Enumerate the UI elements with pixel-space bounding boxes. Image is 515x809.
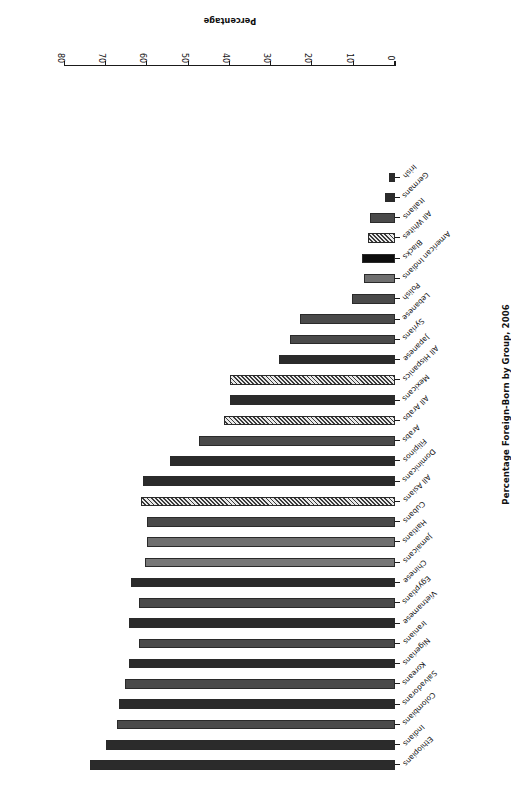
axis-origin-cap xyxy=(395,62,396,67)
bar xyxy=(148,537,396,547)
bar xyxy=(290,335,395,345)
bar xyxy=(119,699,395,709)
category-tick xyxy=(395,278,400,279)
category-tick xyxy=(395,764,400,765)
bar-row: Japanese xyxy=(65,349,395,369)
bar-row: Salvadorans xyxy=(65,694,395,714)
category-tick xyxy=(395,420,400,421)
bar xyxy=(129,659,395,669)
bar xyxy=(364,274,395,284)
bar xyxy=(300,314,395,324)
bar xyxy=(199,436,395,446)
bar-row: All Arabs xyxy=(65,410,395,430)
value-tick xyxy=(394,62,395,67)
category-tick xyxy=(395,541,400,542)
category-tick xyxy=(395,258,400,259)
bar xyxy=(131,578,395,588)
bar xyxy=(170,456,395,466)
bar xyxy=(368,233,395,243)
bar-row: Colombians xyxy=(65,714,395,734)
value-axis: Percentage 01020304050607080 xyxy=(65,6,395,66)
category-tick xyxy=(395,237,400,238)
bar xyxy=(143,477,395,487)
category-tick xyxy=(395,724,400,725)
category-tick xyxy=(395,319,400,320)
bar-row: Nigerians xyxy=(65,653,395,673)
bar-row: Syrians xyxy=(65,329,395,349)
bar-row: Koreans xyxy=(65,674,395,694)
bar-row: American Indians xyxy=(65,268,395,288)
category-tick xyxy=(395,704,400,705)
category-tick xyxy=(395,197,400,198)
category-tick xyxy=(395,217,400,218)
category-tick xyxy=(395,460,400,461)
bar xyxy=(230,375,395,385)
bar xyxy=(106,740,395,750)
bar-row: All Whites xyxy=(65,228,395,248)
category-tick xyxy=(395,663,400,664)
value-tick-label: 40 xyxy=(221,53,230,63)
category-tick xyxy=(395,400,400,401)
bar xyxy=(362,254,395,264)
bar-row: Indians xyxy=(65,734,395,754)
bar xyxy=(145,558,395,568)
category-tick xyxy=(395,602,400,603)
bar xyxy=(139,639,395,649)
value-tick-label: 50 xyxy=(180,53,189,63)
bar-row: Lebanese xyxy=(65,309,395,329)
bar xyxy=(125,679,395,689)
bar-row: Iranians xyxy=(65,633,395,653)
category-tick xyxy=(395,683,400,684)
bar-row: Mexicans xyxy=(65,390,395,410)
bar xyxy=(129,618,395,628)
bar-row: Jamaicans xyxy=(65,552,395,572)
category-tick xyxy=(395,177,400,178)
category-tick xyxy=(395,339,400,340)
bar-row: Ethiopians xyxy=(65,755,395,775)
bar-row: Irish xyxy=(65,167,395,187)
bar-row: Arabs xyxy=(65,430,395,450)
value-tick-label: 30 xyxy=(262,53,271,63)
value-tick-label: 80 xyxy=(56,53,65,63)
bar-row: Blacks xyxy=(65,248,395,268)
bar xyxy=(139,598,395,608)
bar xyxy=(385,193,395,203)
category-tick xyxy=(395,521,400,522)
value-tick-label: 0 xyxy=(386,55,395,60)
bar xyxy=(141,497,395,507)
bar xyxy=(370,213,395,223)
category-tick xyxy=(395,359,400,360)
category-tick xyxy=(395,379,400,380)
axis-line xyxy=(65,65,395,66)
value-axis-title: Percentage xyxy=(65,16,395,26)
value-tick-label: 60 xyxy=(139,53,148,63)
bar-row: Polish xyxy=(65,289,395,309)
bar xyxy=(148,517,396,527)
category-tick xyxy=(395,481,400,482)
bar-row: All Hispanics xyxy=(65,370,395,390)
value-tick-label: 70 xyxy=(97,53,106,63)
category-tick xyxy=(395,440,400,441)
bar-row: Chinese xyxy=(65,572,395,592)
bar-row: Germans xyxy=(65,187,395,207)
category-tick xyxy=(395,623,400,624)
bar-row: Haitians xyxy=(65,532,395,552)
category-tick xyxy=(395,501,400,502)
bar xyxy=(352,294,395,304)
chart-title: Percentage Foreign-Born by Group, 2006 xyxy=(492,0,515,809)
bar xyxy=(224,416,395,426)
bar xyxy=(280,355,396,365)
bar-row: All Asians xyxy=(65,491,395,511)
value-tick-label: 20 xyxy=(304,53,313,63)
category-tick xyxy=(395,298,400,299)
bar xyxy=(230,395,395,405)
category-tick xyxy=(395,744,400,745)
bar-row: Cubans xyxy=(65,512,395,532)
bar-row: Filipinos xyxy=(65,451,395,471)
bar-row: Dominicans xyxy=(65,471,395,491)
bar-row: Vietnamese xyxy=(65,613,395,633)
bar xyxy=(389,173,395,183)
category-tick xyxy=(395,562,400,563)
bar xyxy=(117,720,395,730)
